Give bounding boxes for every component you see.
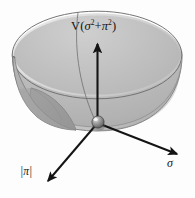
origin-ball-specular — [94, 118, 98, 121]
potential-diagram-figure: V(σ2+π2) σ |π| — [0, 0, 195, 198]
potential-label-suffix: ) — [112, 19, 116, 33]
potential-axis-label: V(σ2+π2) — [71, 20, 116, 33]
origin-ball — [92, 116, 104, 128]
potential-label-plus: + — [95, 19, 102, 33]
sigma-axis-arrow — [100, 124, 177, 154]
sigma-axis-label: σ — [167, 157, 173, 169]
potential-label-prefix: V( — [71, 19, 84, 33]
pi-axis-label: |π| — [20, 166, 32, 178]
pi-axis-arrow — [48, 126, 95, 181]
